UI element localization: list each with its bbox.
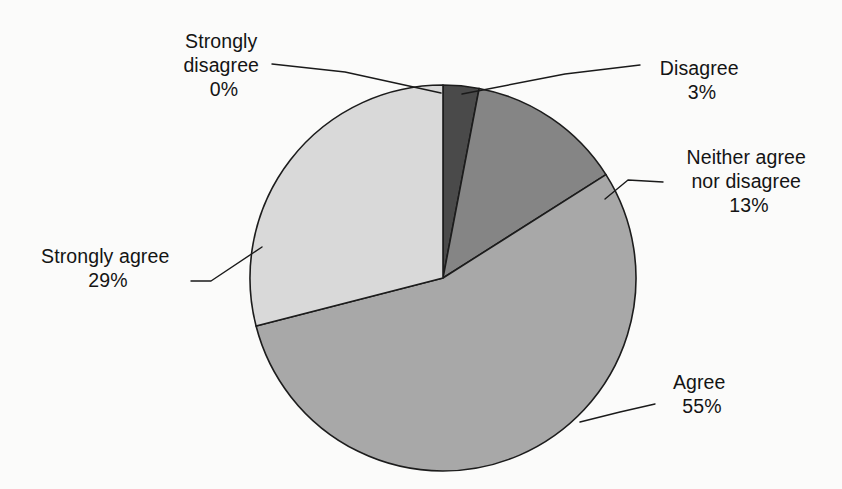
- pie-chart-figure: Strongly disagree 0% Disagree 3% Neither…: [0, 0, 842, 489]
- label-strongly-disagree-line2: disagree: [183, 54, 259, 76]
- label-neither-line1: Neither agree: [687, 146, 806, 168]
- pie-chart-page: Strongly disagree 0% Disagree 3% Neither…: [0, 0, 842, 489]
- label-neither-agree-nor-disagree: Neither agree nor disagree 13%: [687, 146, 812, 216]
- label-strongly-agree-percent: 29%: [88, 269, 127, 291]
- label-agree-line1: Agree: [673, 371, 726, 393]
- label-agree-percent: 55%: [682, 395, 721, 417]
- label-strongly-disagree-percent: 0%: [210, 78, 238, 100]
- label-disagree: Disagree 3%: [660, 57, 744, 103]
- label-strongly-disagree-line1: Strongly: [185, 30, 257, 52]
- label-strongly-agree-line1: Strongly agree: [41, 245, 169, 267]
- label-disagree-line1: Disagree: [660, 57, 739, 79]
- leader-line-disagree: [462, 65, 640, 94]
- leader-line-agree: [580, 404, 655, 422]
- label-strongly-agree: Strongly agree 29%: [41, 245, 175, 291]
- label-strongly-disagree: Strongly disagree 0%: [183, 30, 264, 100]
- label-disagree-percent: 3%: [688, 81, 716, 103]
- label-neither-percent: 13%: [729, 194, 768, 216]
- label-agree: Agree 55%: [673, 371, 731, 417]
- pie-slices-group: [250, 85, 636, 471]
- label-neither-line2: nor disagree: [691, 170, 801, 192]
